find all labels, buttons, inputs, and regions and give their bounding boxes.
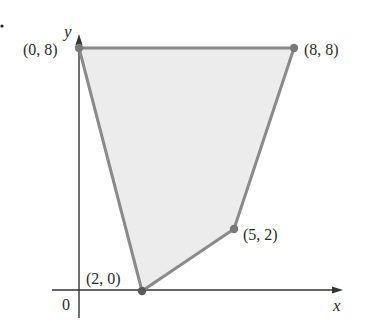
vertex-2-0 [138,287,146,295]
y-axis-arrow-icon [76,34,83,45]
x-axis-label: x [332,296,341,315]
x-axis-arrow-icon [332,287,343,294]
vertex-label-5-2: (5, 2) [243,226,278,244]
origin-label: 0 [62,296,70,313]
vertex-label-8-8: (8, 8) [304,41,339,59]
vertex-0-8 [75,44,83,52]
vertex-8-8 [290,44,298,52]
feasible-region-diagram: y x 0 (0, 8) (8, 8) (5, 2) (2, 0) [0,0,371,327]
bullet-dot [0,24,3,27]
vertex-label-2-0: (2, 0) [86,270,121,288]
vertex-5-2 [230,225,238,233]
y-axis-label: y [62,22,72,41]
vertex-label-0-8: (0, 8) [23,41,58,59]
